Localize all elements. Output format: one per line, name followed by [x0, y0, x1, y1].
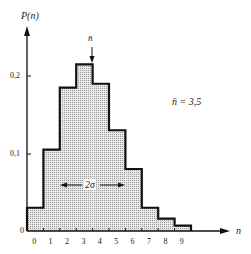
bar-6 — [125, 169, 141, 231]
x-tick-label-9: 9 — [180, 237, 184, 246]
bar-0 — [27, 208, 43, 231]
y-axis-arrow-icon — [24, 26, 30, 36]
bar-2 — [60, 88, 76, 231]
sigma-label: 2σ — [84, 179, 96, 190]
y-tick-label-0: 0 — [20, 226, 24, 235]
x-tick-label-5: 5 — [114, 237, 118, 246]
x-tick-label-0: 0 — [32, 237, 36, 246]
x-tick-label-8: 8 — [163, 237, 167, 246]
x-tick-label-1: 1 — [49, 237, 53, 246]
bar-5 — [109, 130, 125, 231]
histogram-chart — [0, 0, 251, 254]
x-tick-label-4: 4 — [98, 237, 102, 246]
x-tick-label-2: 2 — [65, 237, 69, 246]
x-tick-label-7: 7 — [147, 237, 151, 246]
bar-7 — [142, 208, 158, 231]
bar-4 — [93, 84, 109, 231]
x-axis-arrow-icon — [220, 228, 230, 234]
bar-1 — [43, 150, 59, 231]
y-axis-label: P(n) — [21, 10, 39, 21]
mean-marker-label: n̄ — [88, 33, 93, 43]
bar-3 — [76, 64, 92, 231]
mean-value-annotation: n̄ = 3,5 — [172, 96, 201, 107]
y-tick-label-0.1: 0,1 — [10, 149, 20, 158]
mean-arrow-icon — [90, 56, 95, 63]
x-tick-label-6: 6 — [131, 237, 135, 246]
x-tick-label-3: 3 — [81, 237, 85, 246]
bar-8 — [158, 219, 174, 231]
x-axis-label: n — [236, 225, 241, 236]
y-tick-label-0.2: 0,2 — [10, 71, 20, 80]
